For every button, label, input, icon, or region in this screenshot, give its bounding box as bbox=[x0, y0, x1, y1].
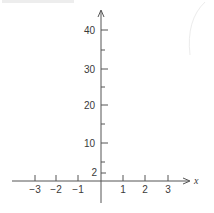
y-tick-label: 20 bbox=[84, 100, 96, 111]
y-tick-label: 10 bbox=[84, 138, 96, 149]
x-tick-label: 2 bbox=[142, 184, 148, 195]
y-tick-label: 2 bbox=[91, 167, 97, 178]
y-tick-labels: 2 10 20 30 40 bbox=[84, 25, 98, 178]
x-tick-label: −2 bbox=[50, 184, 62, 195]
y-ticks-minor bbox=[101, 50, 105, 162]
x-tick-label: 3 bbox=[165, 184, 171, 195]
y-tick-label: 30 bbox=[84, 64, 96, 75]
x-axis-label: x bbox=[193, 175, 199, 186]
x-tick-label: −1 bbox=[72, 184, 84, 195]
coordinate-plane: x −3 −2 −1 1 2 3 2 10 20 30 40 bbox=[0, 0, 214, 213]
y-ticks-major bbox=[101, 30, 108, 173]
x-tick-labels: −3 −2 −1 1 2 3 bbox=[29, 184, 171, 195]
y-tick-label: 40 bbox=[84, 25, 96, 36]
x-tick-label: 1 bbox=[120, 184, 126, 195]
bleed-through-arc bbox=[189, 2, 205, 55]
x-tick-label: −3 bbox=[29, 184, 41, 195]
